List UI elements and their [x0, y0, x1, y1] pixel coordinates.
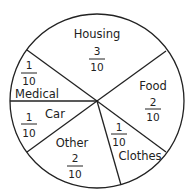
slice-denominator: 10	[146, 111, 159, 123]
slice-denominator: 10	[22, 127, 35, 139]
pie-chart: Housing 3 10 Food 2 10 1 10 Clothes Othe…	[0, 0, 187, 196]
slice-label: Housing	[74, 27, 121, 41]
slice-denominator: 10	[68, 168, 81, 180]
slice-label: Food	[139, 79, 167, 93]
slice-label: Clothes	[118, 149, 161, 163]
slice-denominator: 10	[90, 61, 103, 73]
slice-numerator: 1	[26, 59, 33, 71]
slice-numerator: 3	[94, 45, 101, 57]
slice-numerator: 1	[26, 111, 33, 123]
slice-numerator: 1	[116, 121, 123, 133]
slice-denominator: 10	[22, 75, 35, 87]
slice-label: Car	[45, 107, 65, 121]
slice-numerator: 2	[72, 152, 79, 164]
slice-label: Other	[56, 136, 89, 150]
slice-label: Medical	[15, 87, 59, 101]
slice-numerator: 2	[150, 96, 157, 108]
slice-denominator: 10	[112, 136, 125, 148]
